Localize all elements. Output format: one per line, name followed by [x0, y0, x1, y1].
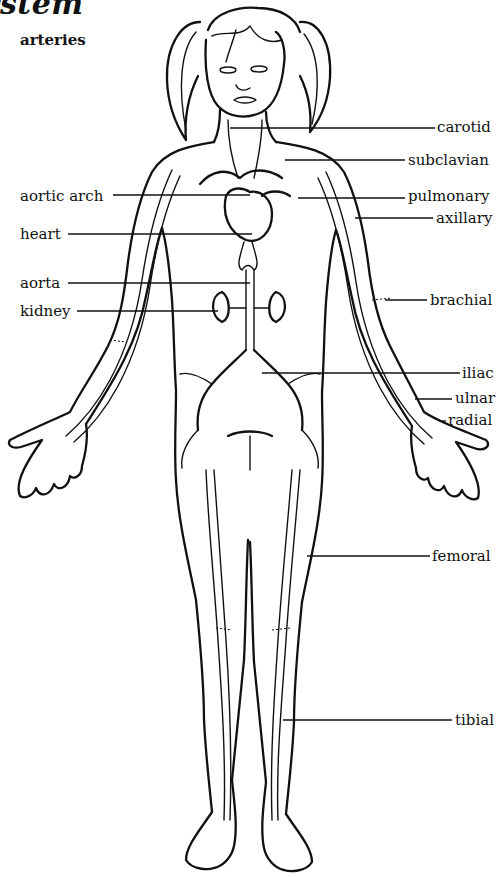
label-carotid: carotid [437, 118, 491, 136]
torso-and-arms [9, 142, 488, 871]
body-figure-illustration [0, 0, 498, 877]
label-iliac: iliac [462, 364, 494, 382]
label-axillary: axillary [436, 209, 492, 227]
label-ulnar: ulnar [455, 389, 495, 407]
heart-and-vessels [180, 120, 320, 470]
label-brachial: brachial [430, 291, 492, 309]
head [167, 8, 330, 142]
label-femoral: femoral [432, 547, 491, 565]
leader-lines [68, 128, 460, 720]
circulatory-system-diagram: ystem arteries [0, 0, 498, 877]
label-heart: heart [20, 225, 61, 243]
label-kidney: kidney [20, 302, 71, 320]
label-aorta: aorta [20, 274, 60, 292]
label-pulmonary: pulmonary [408, 187, 490, 205]
label-aortic-arch: aortic arch [20, 187, 103, 205]
label-radial: radial [448, 411, 492, 429]
label-tibial: tibial [455, 711, 494, 729]
label-subclavian: subclavian [408, 151, 489, 169]
